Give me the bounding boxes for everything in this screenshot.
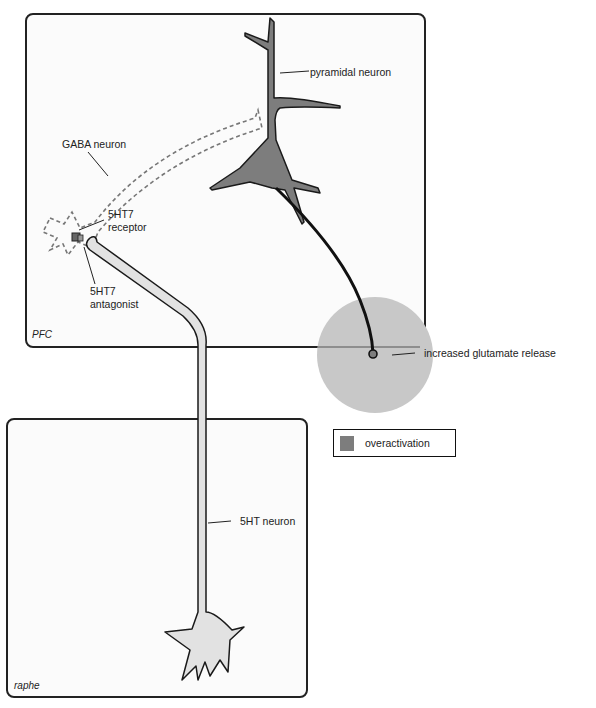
legend: overactivation — [333, 429, 456, 457]
overactivation-swatch — [340, 436, 354, 451]
legend-item-overactivation: overactivation — [365, 437, 430, 449]
5ht7-antagonist-label: 5HT7 antagonist — [90, 285, 138, 311]
5ht7-receptor-label-line1: 5HT7 — [108, 208, 147, 221]
5ht7-antagonist-label-line2: antagonist — [90, 298, 138, 311]
glutamate-release-label: increased glutamate release — [424, 347, 556, 360]
gaba-neuron-label: GABA neuron — [62, 138, 126, 151]
5ht7-receptor — [72, 233, 83, 241]
5ht7-antagonist-label-line1: 5HT7 — [90, 285, 138, 298]
5ht7-receptor-label-line2: receptor — [108, 221, 147, 234]
pyramidal-neuron-label: pyramidal neuron — [310, 66, 391, 79]
5ht7-receptor-label: 5HT7 receptor — [108, 208, 147, 234]
pfc-region-label: PFC — [32, 329, 52, 340]
5ht-neuron-label: 5HT neuron — [240, 515, 295, 528]
raphe-region-label: raphe — [14, 680, 40, 691]
